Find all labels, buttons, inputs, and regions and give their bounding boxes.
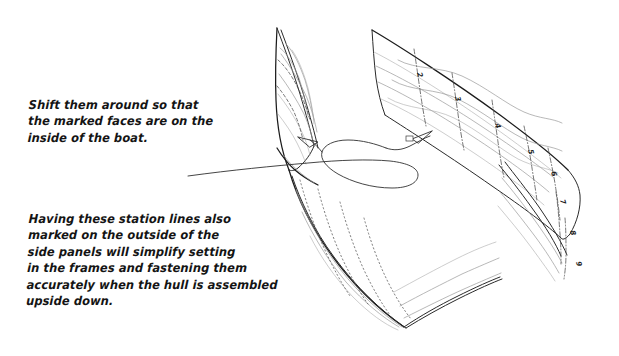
arrowhead-left	[298, 137, 318, 147]
station-number-5: 5	[526, 148, 536, 155]
station-number-2: 2	[415, 71, 425, 78]
drawing-canvas: .dk { fill:none; stroke:#1b1b1b; stroke-…	[0, 0, 619, 356]
right-lower-side-panel: 7 8 9	[498, 162, 584, 281]
station-number-7: 7	[558, 198, 568, 205]
annotation-station-lines: Having these station lines also marked o…	[26, 211, 280, 309]
annotation-shift-panels: Shift them around so that the marked fac…	[27, 97, 214, 146]
station-number-3: 3	[453, 95, 463, 102]
station-number-6: 6	[549, 170, 559, 177]
station-number-4: 4	[493, 122, 503, 129]
right-upper-side-panel: 2 3 4 5 6	[372, 30, 580, 239]
leader-line-group	[188, 131, 432, 188]
left-upper-side-panel	[276, 28, 318, 171]
station-number-8: 8	[568, 229, 578, 236]
left-lower-side-panel	[289, 170, 502, 330]
station-number-9: 9	[574, 260, 584, 267]
